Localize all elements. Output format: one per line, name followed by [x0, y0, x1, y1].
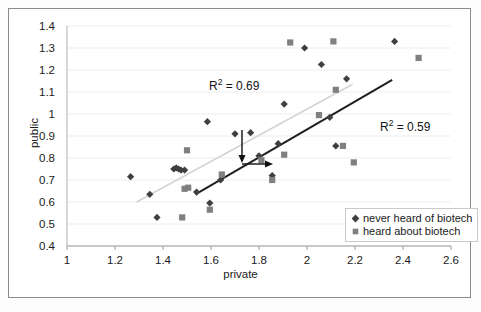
data-point-s1-13[interactable] — [340, 143, 346, 149]
data-point-s0-17[interactable] — [281, 101, 288, 108]
data-point-s0-18[interactable] — [301, 44, 308, 51]
data-point-s1-15[interactable] — [416, 55, 422, 61]
r2-light-suffix: = 0.69 — [222, 79, 259, 93]
data-point-s0-0[interactable] — [127, 173, 134, 180]
y-tick-1.3: 1.3 — [15, 43, 55, 55]
y-tick-0.6: 0.6 — [15, 197, 55, 209]
x-tick-2.6: 2.6 — [431, 255, 471, 267]
data-point-s0-11[interactable] — [204, 118, 211, 125]
y-tick-0.7: 0.7 — [15, 175, 55, 187]
diamond-marker-icon — [350, 214, 361, 223]
data-point-s1-5[interactable] — [219, 171, 225, 177]
data-point-s0-9[interactable] — [206, 200, 213, 207]
data-point-s1-11[interactable] — [330, 38, 336, 44]
r2-dark-prefix: R — [380, 120, 389, 134]
data-point-s1-0[interactable] — [179, 214, 185, 220]
y-tick-1.2: 1.2 — [15, 65, 55, 77]
data-point-s0-16[interactable] — [275, 140, 282, 147]
y-axis-label: public — [28, 103, 40, 163]
y-tick-1.4: 1.4 — [15, 21, 55, 33]
x-tick-1.6: 1.6 — [191, 255, 231, 267]
x-tick-1.8: 1.8 — [239, 255, 279, 267]
legend-label-never-heard: never heard of biotech — [363, 213, 472, 224]
legend-item-heard-about[interactable]: heard about biotech — [350, 225, 472, 238]
data-point-s1-9[interactable] — [287, 39, 293, 45]
data-point-s1-12[interactable] — [333, 87, 339, 93]
x-tick-1.2: 1.2 — [95, 255, 135, 267]
data-point-s0-2[interactable] — [153, 214, 160, 221]
chart-frame: 1.4 1.3 1.2 1.1 1 0.9 0.8 0.7 0.6 0.5 0.… — [8, 8, 471, 298]
r2-light-label: R2 = 0.69 — [209, 77, 259, 93]
data-point-s1-6[interactable] — [258, 157, 264, 163]
arrow-down-head — [239, 155, 246, 163]
r2-light-prefix: R — [209, 79, 218, 93]
y-tick-0.5: 0.5 — [15, 219, 55, 231]
data-point-s1-14[interactable] — [351, 159, 357, 165]
trendlines-group — [137, 80, 393, 202]
y-tick-0.4: 0.4 — [15, 241, 55, 253]
legend-label-heard-about: heard about biotech — [363, 226, 460, 237]
data-point-s0-19[interactable] — [318, 61, 325, 68]
data-point-s0-21[interactable] — [332, 142, 339, 149]
data-point-s1-8[interactable] — [281, 152, 287, 158]
data-point-s0-8[interactable] — [193, 189, 200, 196]
data-point-s1-2[interactable] — [185, 185, 191, 191]
data-points-group — [127, 38, 422, 221]
x-axis-tickmarks — [67, 246, 451, 250]
r2-dark-suffix: = 0.59 — [393, 120, 430, 134]
x-tick-2.4: 2.4 — [383, 255, 423, 267]
x-axis-label: private — [0, 268, 481, 280]
x-tick-2: 2 — [287, 255, 327, 267]
light-trendline — [137, 84, 353, 202]
data-point-s1-10[interactable] — [316, 112, 322, 118]
data-point-s0-23[interactable] — [391, 38, 398, 45]
data-point-s1-3[interactable] — [184, 147, 190, 153]
data-point-s1-7[interactable] — [269, 177, 275, 183]
scanned-page: 1.4 1.3 1.2 1.1 1 0.9 0.8 0.7 0.6 0.5 0.… — [0, 0, 481, 312]
x-tick-1.4: 1.4 — [143, 255, 183, 267]
square-marker-icon — [350, 227, 361, 236]
legend-item-never-heard[interactable]: never heard of biotech — [350, 212, 472, 225]
data-point-s0-22[interactable] — [343, 75, 350, 82]
x-tick-1: 1 — [47, 255, 87, 267]
data-point-s1-4[interactable] — [207, 207, 213, 213]
arrow-right-head — [265, 161, 273, 168]
data-point-s0-13[interactable] — [247, 129, 254, 136]
x-tick-2.2: 2.2 — [335, 255, 375, 267]
chart-legend[interactable]: never heard of biotech heard about biote… — [345, 208, 478, 242]
dark-trendline — [195, 80, 392, 194]
y-tick-1.1: 1.1 — [15, 87, 55, 99]
r2-dark-label: R2 = 0.59 — [380, 118, 430, 134]
